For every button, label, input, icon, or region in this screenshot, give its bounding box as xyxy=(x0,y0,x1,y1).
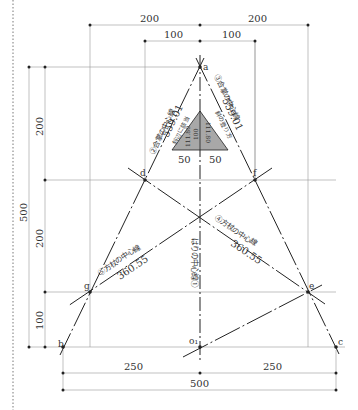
point-c-label: c xyxy=(338,337,343,347)
left-dim-middle: 200 xyxy=(34,229,45,248)
dimension-ticks xyxy=(28,24,338,392)
guide-lines xyxy=(29,25,345,390)
bottom-dim-total: 500 xyxy=(190,378,209,389)
triangle-height: 100 xyxy=(192,128,199,140)
bottom-dim-left: 250 xyxy=(124,361,143,372)
point-b-label: b xyxy=(58,339,64,349)
triangle-side-left: 111.80 xyxy=(184,126,191,147)
top-dim-outer-right: 200 xyxy=(248,13,267,24)
top-dim-inner-left: 100 xyxy=(164,29,183,40)
top-dim-inner-right: 100 xyxy=(222,29,241,40)
point-o1-label: o₁ xyxy=(189,336,198,346)
beam-center-label: はりの中心線① xyxy=(190,238,200,288)
left-dim-upper: 200 xyxy=(34,117,45,136)
triangle-half-base-left: 50 xyxy=(178,154,191,165)
point-f-label: f xyxy=(253,168,257,178)
triangle-side-right: 111.80 xyxy=(205,122,212,143)
point-e-label: e xyxy=(309,281,314,291)
truss-diagram: a b c d e f g o₁ 200 200 100 100 500 200… xyxy=(0,0,358,410)
triangle-half-base-right: 50 xyxy=(209,154,222,165)
point-g-label: g xyxy=(84,281,90,291)
left-dim-lower: 100 xyxy=(34,311,45,330)
point-a-label: a xyxy=(203,62,209,72)
left-dim-total: 500 xyxy=(18,203,29,222)
point-d-label: d xyxy=(140,168,146,178)
bottom-dim-right: 250 xyxy=(263,361,282,372)
top-dim-outer-left: 200 xyxy=(140,13,159,24)
